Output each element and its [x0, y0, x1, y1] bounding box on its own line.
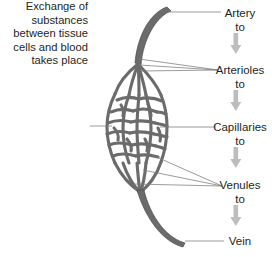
- artery-vessel: [135, 7, 171, 65]
- flow-arrow-4: [230, 205, 241, 226]
- flow-connector-arterioles-to-capillaries: to: [235, 79, 245, 91]
- leader-arterioles-3: [141, 70, 218, 71]
- venule-branches: [115, 162, 161, 192]
- leader-arterioles-2: [139, 65, 218, 70]
- capillary-network: [107, 94, 167, 163]
- leader-lines: [90, 12, 224, 241]
- flow-arrow-1: [230, 33, 241, 54]
- flow-arrow-3: [230, 147, 241, 168]
- vein-vessel: [137, 190, 185, 247]
- flow-label-capillaries: Capillaries: [213, 122, 267, 134]
- arteriole-branches: [115, 64, 161, 95]
- flow-label-venules: Venules: [220, 180, 261, 192]
- leader-arterioles-1: [139, 59, 218, 70]
- flow-label-vein: Vein: [229, 236, 251, 248]
- flow-label-artery: Artery: [225, 8, 256, 20]
- leader-venules-1: [152, 155, 222, 186]
- diagram-canvas: .vessel { fill: #6b6b6b; stroke: #4a4a4a…: [0, 0, 272, 257]
- flow-arrow-2: [230, 90, 241, 111]
- flow-label-arterioles: Arterioles: [216, 65, 265, 77]
- flow-connector-capillaries-to-venules: to: [235, 136, 245, 148]
- flow-connector-artery-to-arterioles: to: [235, 22, 245, 34]
- flow-connector-venules-to-vein: to: [235, 194, 245, 206]
